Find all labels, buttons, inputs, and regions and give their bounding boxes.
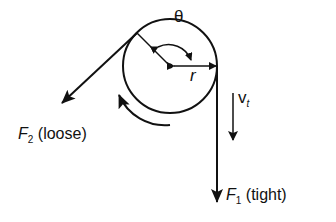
theta-label: θ [174,7,183,27]
radius-line-contact [137,33,170,66]
f1-symbol: F [226,186,236,203]
rotation-arrow [119,95,170,125]
belt-loose-side [62,33,137,103]
radius-label: r [190,66,196,86]
theta-arc [158,45,191,60]
f2-label: F2 (loose) [18,125,87,145]
velocity-symbol: v [238,88,247,107]
f1-subscript: 1 [236,195,242,206]
f1-label: F1 (tight) [226,186,287,206]
velocity-subscript: t [247,98,250,109]
f1-description: (tight) [246,186,287,203]
f2-subscript: 2 [28,134,34,145]
velocity-label: vt [238,88,249,109]
f2-description: (loose) [38,125,87,142]
f2-symbol: F [18,125,28,142]
